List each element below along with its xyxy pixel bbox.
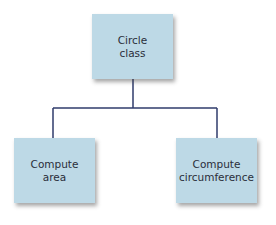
node-label-line: area [31, 171, 79, 184]
node-label-line: class [118, 47, 148, 60]
node-circle-class: Circle class [92, 14, 173, 79]
node-label-line: Circle [118, 34, 148, 47]
node-label-line: Compute [31, 158, 79, 171]
node-label-line: circumference [179, 171, 254, 184]
node-label-line: Compute [179, 158, 254, 171]
node-compute-area: Compute area [14, 138, 95, 203]
node-compute-circumference: Compute circumference [176, 138, 257, 203]
